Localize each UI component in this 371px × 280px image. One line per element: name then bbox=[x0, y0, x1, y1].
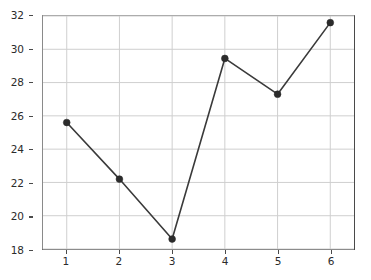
y-tick-label: 28 bbox=[11, 77, 24, 88]
y-tick-label: 22 bbox=[11, 178, 24, 189]
data-point-marker bbox=[221, 55, 228, 62]
data-series bbox=[43, 16, 354, 249]
y-tick-mark bbox=[29, 116, 33, 117]
x-tick-label: 5 bbox=[275, 256, 282, 267]
y-tick-label: 18 bbox=[11, 245, 24, 256]
data-point-marker bbox=[274, 91, 281, 98]
x-tick-label: 1 bbox=[63, 256, 70, 267]
y-tick-mark bbox=[29, 216, 33, 217]
y-tick-label: 30 bbox=[11, 43, 24, 54]
x-tick-label: 4 bbox=[222, 256, 229, 267]
line-chart-figure: 1820222426283032 123456 bbox=[0, 0, 371, 280]
y-tick-mark bbox=[29, 15, 33, 16]
data-point-marker bbox=[116, 176, 123, 183]
y-tick-label: 24 bbox=[11, 144, 24, 155]
y-tick-mark bbox=[29, 49, 33, 50]
x-tick-label: 6 bbox=[328, 256, 335, 267]
y-tick-mark bbox=[29, 183, 33, 184]
data-point-marker bbox=[327, 19, 334, 26]
x-tick-mark bbox=[331, 250, 332, 254]
x-tick-mark bbox=[119, 250, 120, 254]
y-tick-mark bbox=[29, 250, 33, 251]
x-tick-mark bbox=[172, 250, 173, 254]
data-point-marker bbox=[63, 119, 70, 126]
y-tick-label: 32 bbox=[11, 10, 24, 21]
x-axis-tick-labels: 123456 bbox=[42, 256, 355, 272]
x-tick-mark bbox=[66, 250, 67, 254]
series-line bbox=[67, 23, 331, 239]
y-tick-mark bbox=[29, 149, 33, 150]
x-tick-mark bbox=[225, 250, 226, 254]
data-point-marker bbox=[169, 236, 176, 243]
x-tick-label: 2 bbox=[116, 256, 123, 267]
x-tick-mark bbox=[278, 250, 279, 254]
y-tick-label: 26 bbox=[11, 110, 24, 121]
plot-area bbox=[42, 15, 355, 250]
x-tick-label: 3 bbox=[169, 256, 176, 267]
y-tick-mark bbox=[29, 82, 33, 83]
y-axis-tick-labels: 1820222426283032 bbox=[0, 15, 33, 250]
y-tick-label: 20 bbox=[11, 211, 24, 222]
